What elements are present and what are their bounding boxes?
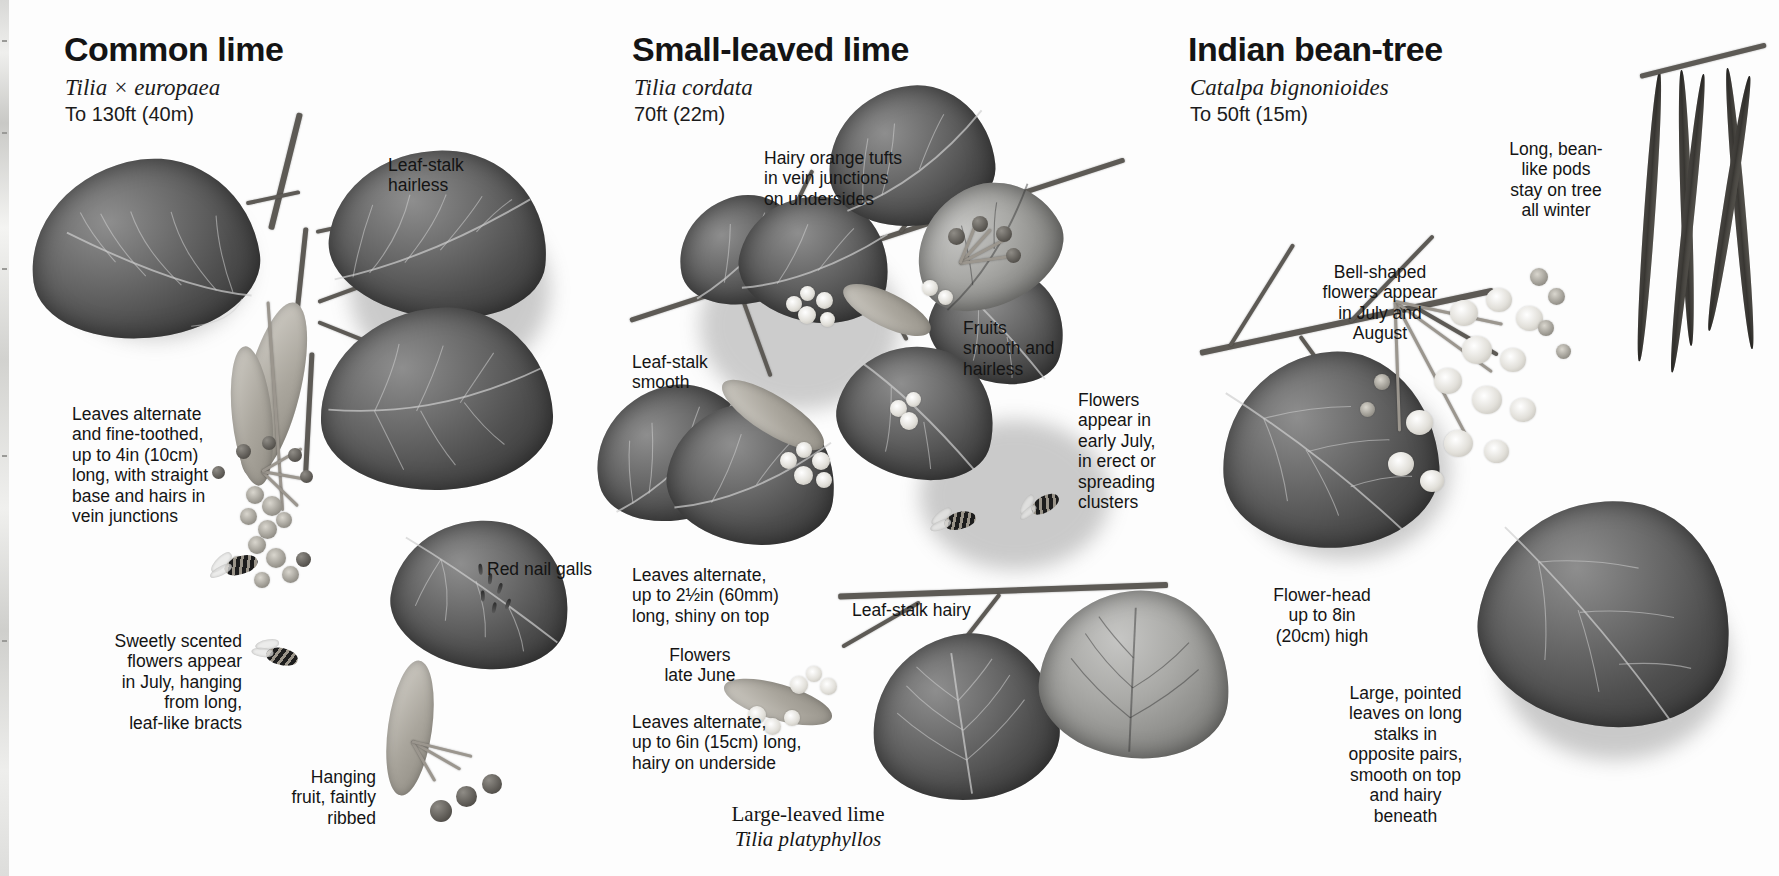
- caption-hairy-orange-tufts: Hairy orange tufts in vein junctions on …: [764, 148, 964, 209]
- caption-leaf-stalk-smooth: Leaf-stalk smooth: [632, 352, 772, 393]
- species-title-indian-bean-tree: Indian bean-tree: [1188, 30, 1443, 69]
- species-latin-indian-bean-tree: Catalpa bignonioides: [1190, 75, 1389, 101]
- caption-leaf-stalk-hairless: Leaf-stalk hairless: [388, 155, 538, 196]
- caption-long-bean-like-pods: Long, bean- like pods stay on tree all w…: [1486, 139, 1626, 221]
- caption-leaf-stalk-hairy: Leaf-stalk hairy: [852, 600, 1032, 620]
- caption-flowers-appear-early-july: Flowers appear in early July, in erect o…: [1078, 390, 1208, 513]
- edge-tick: [2, 455, 7, 457]
- species-height-small-leaved-lime: 70ft (22m): [634, 103, 725, 126]
- caption-hanging-fruit: Hanging fruit, faintly ribbed: [236, 767, 376, 828]
- species-height-indian-bean-tree: To 50ft (15m): [1190, 103, 1308, 126]
- species-title-common-lime: Common lime: [64, 30, 283, 69]
- edge-tick: [2, 640, 7, 642]
- species-latin-small-leaved-lime: Tilia cordata: [634, 75, 753, 101]
- caption-leaves-alternate-large: Leaves alternate, up to 6in (15cm) long,…: [632, 712, 872, 773]
- bee-illustration: [265, 645, 300, 668]
- species-latin-common-lime: Tilia × europaea: [65, 75, 220, 101]
- bee-illustration: [222, 551, 260, 579]
- caption-leaves-alternate: Leaves alternate and fine-toothed, up to…: [72, 404, 272, 527]
- sub-species-large-leaved-lime: Large-leaved lime Tilia platyphyllos: [668, 777, 948, 876]
- edge-tick: [2, 132, 7, 134]
- edge-tick: [2, 40, 7, 42]
- sub-species-latin-name: Tilia platyphyllos: [668, 827, 948, 852]
- caption-sweetly-scented: Sweetly scented flowers appear in July, …: [70, 631, 242, 733]
- caption-fruits-smooth: Fruits smooth and hairless: [963, 318, 1093, 379]
- species-height-common-lime: To 130ft (40m): [65, 103, 194, 126]
- caption-flower-head-size: Flower-head up to 8in (20cm) high: [1242, 585, 1402, 646]
- caption-leaves-alternate-small: Leaves alternate, up to 2½in (60mm) long…: [632, 565, 847, 626]
- edge-tick: [2, 268, 7, 270]
- sub-species-common-name: Large-leaved lime: [732, 802, 885, 826]
- caption-bell-shaped-flowers: Bell-shaped flowers appear in July and A…: [1300, 262, 1460, 344]
- species-title-small-leaved-lime: Small-leaved lime: [632, 30, 909, 69]
- field-guide-page: Common lime Tilia × europaea To 130ft (4…: [0, 0, 1779, 876]
- caption-flowers-late-june: Flowers late June: [640, 645, 760, 686]
- caption-large-pointed-leaves: Large, pointed leaves on long stalks in …: [1318, 683, 1493, 826]
